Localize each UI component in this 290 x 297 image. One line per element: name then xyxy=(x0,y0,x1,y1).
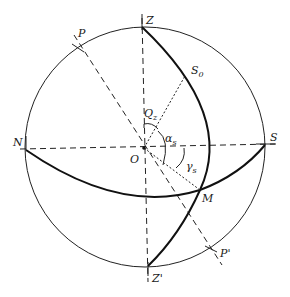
celestial-sphere-diagram: Z P N S O M P' Z' S0 Qz αs γs xyxy=(0,0,290,297)
label-nadir: Z' xyxy=(151,272,163,285)
label-pole: P xyxy=(77,27,86,40)
label-angle-q: Qz xyxy=(144,107,158,122)
label-pole-opposite: P' xyxy=(219,247,230,260)
label-north: N xyxy=(12,136,23,149)
zenith-nadir-line xyxy=(142,18,148,282)
center-point xyxy=(142,146,146,150)
label-angle-gamma: γs xyxy=(186,160,197,175)
angle-gamma-arc xyxy=(176,148,184,168)
label-center: O xyxy=(130,153,139,166)
label-sun-noon: S0 xyxy=(191,64,204,79)
label-point-m: M xyxy=(201,192,214,205)
angle-q-arc xyxy=(144,124,158,129)
label-zenith: Z xyxy=(145,14,154,27)
label-south: S xyxy=(270,131,278,144)
label-angle-alpha: αs xyxy=(165,132,177,147)
horizon-line xyxy=(20,144,275,149)
